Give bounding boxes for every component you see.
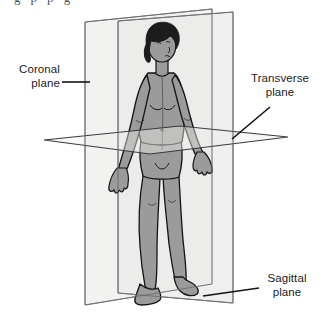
- transverse-plane-surface: [44, 126, 288, 154]
- cropped-header-strip: g p p g: [0, 0, 323, 7]
- label-transverse-line1: Transverse: [244, 72, 316, 86]
- label-sagittal-line1: Sagittal: [258, 272, 316, 286]
- label-coronal-plane: Coronal plane: [8, 63, 60, 90]
- label-sagittal-line2: plane: [258, 286, 316, 300]
- label-transverse-line2: plane: [244, 86, 316, 100]
- label-sagittal-plane: Sagittal plane: [258, 272, 316, 299]
- transverse-plane: [44, 126, 288, 154]
- cropped-header-text: g p p g: [14, 0, 74, 6]
- label-coronal-line2: plane: [8, 77, 60, 91]
- label-coronal-line1: Coronal: [8, 63, 60, 77]
- anatomical-planes-diagram: g p p g Coronal plane Transverse plane S…: [0, 0, 323, 325]
- label-transverse-plane: Transverse plane: [244, 72, 316, 99]
